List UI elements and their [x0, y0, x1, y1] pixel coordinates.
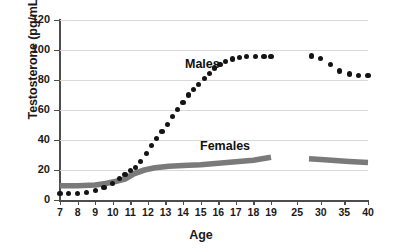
x-tick-mark [344, 200, 345, 205]
x-tick-mark [297, 200, 298, 205]
data-point-male [328, 62, 333, 67]
data-point-male [144, 151, 149, 156]
y-tick-label: 120 [10, 13, 50, 25]
y-tick-label: 0 [10, 193, 50, 205]
series-label-females: Females [200, 139, 250, 153]
x-tick-mark [321, 200, 322, 205]
data-point-male [268, 54, 273, 59]
x-tick-mark [201, 200, 202, 205]
females-band-segment [309, 159, 368, 163]
data-point-male [159, 129, 164, 134]
y-tick-label: 20 [10, 163, 50, 175]
data-point-male [202, 76, 207, 81]
x-axis-title: Age [0, 228, 402, 242]
x-tick-mark [148, 200, 149, 205]
data-point-male [149, 143, 154, 148]
data-point-male [309, 53, 314, 58]
series-label-males: Males [185, 57, 220, 71]
x-tick-mark [130, 200, 131, 205]
x-tick-label: 40 [353, 206, 383, 218]
data-point-male [186, 92, 191, 97]
x-tick-mark [113, 200, 114, 205]
x-tick-mark [218, 200, 219, 205]
x-tick-mark [60, 200, 61, 205]
x-tick-mark [78, 200, 79, 205]
females-series-band [60, 20, 368, 200]
x-tick-mark [253, 200, 254, 205]
data-point-male [347, 71, 352, 76]
x-tick-mark [271, 200, 272, 205]
data-point-male [261, 54, 266, 59]
data-point-male [93, 188, 98, 193]
data-point-male [365, 73, 370, 78]
y-tick-label: 40 [10, 133, 50, 145]
data-point-male [180, 100, 185, 105]
data-point-male [230, 56, 235, 61]
females-band-segment [60, 157, 271, 186]
data-point-male [101, 185, 106, 190]
data-point-male [223, 59, 228, 64]
data-point-male [337, 68, 342, 73]
x-tick-mark [368, 200, 369, 205]
y-tick-label: 100 [10, 43, 50, 55]
x-tick-mark [95, 200, 96, 205]
data-point-male [75, 191, 80, 196]
y-tick-label: 80 [10, 73, 50, 85]
data-point-male [165, 122, 170, 127]
data-point-male [237, 55, 242, 60]
data-point-male [122, 172, 127, 177]
x-tick-mark [165, 200, 166, 205]
data-point-male [57, 191, 62, 196]
y-tick-label: 60 [10, 103, 50, 115]
testosterone-by-age-chart: Testosterone (pg/mL) Age 020406080100120… [0, 0, 402, 251]
plot-area [60, 20, 368, 200]
x-tick-mark [183, 200, 184, 205]
x-axis-line [59, 200, 369, 202]
data-point-male [207, 71, 212, 76]
x-tick-mark [236, 200, 237, 205]
